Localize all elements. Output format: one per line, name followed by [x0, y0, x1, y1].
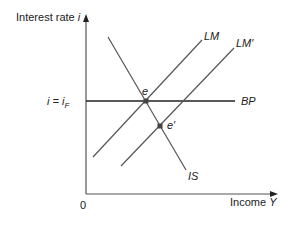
- lm-prime-label: LM′: [236, 37, 254, 49]
- point-e-marker: [144, 99, 149, 104]
- level-label: i = iF: [47, 95, 70, 110]
- y-axis-arrow-icon: [83, 14, 89, 22]
- x-axis-label: Income Y: [230, 196, 277, 208]
- is-label: IS: [188, 170, 199, 182]
- point-e-prime-marker: [158, 124, 163, 129]
- origin-label: 0: [80, 199, 86, 211]
- bp-label: BP: [241, 95, 256, 107]
- point-e-prime-label: e′: [167, 119, 176, 131]
- y-axis-label: Interest rate i: [16, 11, 81, 23]
- point-e-label: e: [142, 85, 148, 97]
- is-lm-bp-diagram: Interest rate i Income Y 0 i = iF LM LM′…: [0, 0, 295, 225]
- lm-label: LM: [204, 30, 220, 42]
